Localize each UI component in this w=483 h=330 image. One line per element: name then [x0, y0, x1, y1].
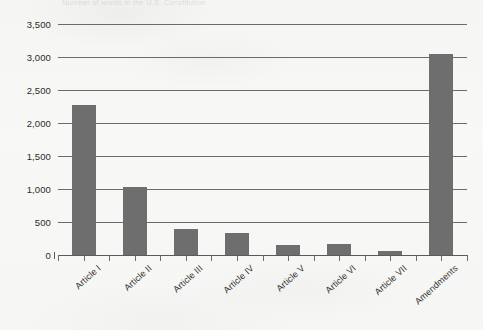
- x-axis-tick: [263, 255, 264, 261]
- y-axis-tick-label: 1,000: [27, 184, 51, 195]
- y-axis-tick-label: 1,500: [27, 151, 51, 162]
- x-axis-tick: [365, 255, 366, 261]
- x-axis-label-text: Article V: [275, 263, 307, 293]
- x-axis-tick: [467, 255, 468, 261]
- x-axis-tick: [390, 255, 391, 261]
- x-axis-tick: [135, 255, 136, 261]
- bar[interactable]: [327, 244, 351, 255]
- bar[interactable]: [174, 229, 198, 255]
- x-axis-label-text: Article I: [73, 263, 103, 291]
- x-axis-tick: [416, 255, 417, 261]
- bar[interactable]: [72, 105, 96, 255]
- bar[interactable]: [429, 54, 453, 255]
- bars-series: [58, 24, 467, 255]
- x-axis-label: Article VI: [324, 263, 358, 295]
- y-axis-tick-label: 3,500: [27, 19, 51, 30]
- y-axis-tick-label: 3,000: [27, 52, 51, 63]
- x-axis-label-text: Article VI: [324, 263, 358, 295]
- x-axis-tick: [160, 255, 161, 261]
- x-axis-tick: [109, 255, 110, 261]
- x-axis-tick: [58, 255, 59, 261]
- x-axis-tick: [339, 255, 340, 261]
- x-axis-tick: [211, 255, 212, 261]
- x-axis-label: Article VII: [373, 263, 409, 297]
- bar[interactable]: [123, 187, 147, 255]
- y-axis-zero-tick: [54, 252, 55, 259]
- x-axis-label: Article II: [122, 263, 154, 293]
- y-axis-tick-label: 500: [35, 217, 51, 228]
- x-axis-label: Article I: [73, 263, 103, 291]
- x-axis-tick: [84, 255, 85, 261]
- x-axis-label-text: Amendments: [413, 263, 460, 307]
- y-axis-tick-label: 2,500: [27, 85, 51, 96]
- y-axis-tick-label: 2,000: [27, 118, 51, 129]
- x-axis-label-text: Article VII: [373, 263, 409, 297]
- y-axis-tick-label: 0: [46, 250, 51, 261]
- x-axis-tick: [441, 255, 442, 261]
- x-axis-label: Article V: [275, 263, 307, 293]
- x-axis-labels: Article IArticle IIArticle IIIArticle IV…: [58, 263, 467, 330]
- x-axis-tick: [237, 255, 238, 261]
- x-axis-tick: [314, 255, 315, 261]
- plot-area: 05001,0001,5002,0002,5003,0003,500: [58, 24, 467, 255]
- x-axis-label-text: Article II: [122, 263, 154, 293]
- bar-chart: Number of words in the U.S. Constitution…: [0, 0, 483, 330]
- x-axis-label: Amendments: [413, 263, 460, 307]
- x-axis-tick: [288, 255, 289, 261]
- x-axis-label-text: Article III: [171, 263, 205, 295]
- x-axis-label: Article IV: [221, 263, 255, 295]
- x-axis-ticks: [58, 255, 467, 263]
- x-axis-label-text: Article IV: [221, 263, 255, 295]
- bar[interactable]: [276, 245, 300, 255]
- x-axis-label: Article III: [171, 263, 205, 295]
- bar[interactable]: [225, 233, 249, 255]
- chart-title: Number of words in the U.S. Constitution: [62, 0, 392, 7]
- x-axis-tick: [186, 255, 187, 261]
